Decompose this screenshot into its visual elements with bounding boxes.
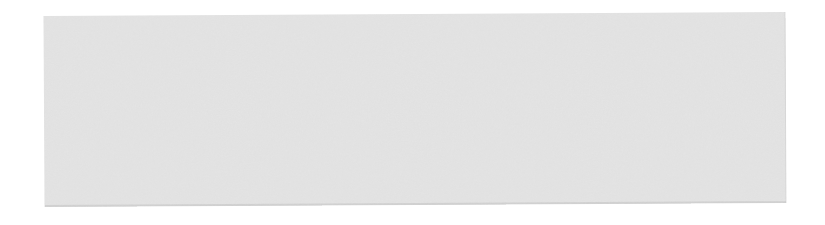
page-background xyxy=(0,0,825,225)
halftone-grain-texture xyxy=(43,12,786,207)
scanned-texture-panel xyxy=(43,12,786,207)
